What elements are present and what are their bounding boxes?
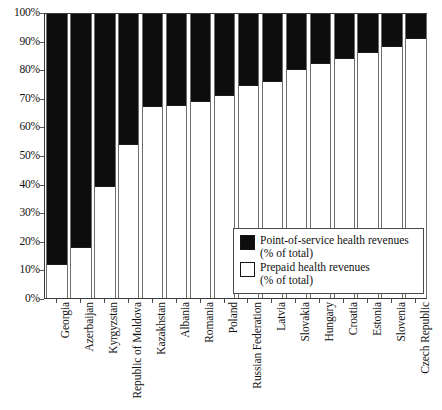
bar-stack	[166, 14, 187, 298]
bar-segment-point-of-service	[119, 14, 138, 146]
legend-swatch-prepaid	[240, 262, 255, 277]
y-tick-label: 0%	[0, 293, 40, 305]
x-category-label: Georgia	[60, 302, 72, 338]
bar-column	[142, 14, 163, 298]
bar-segment-point-of-service	[71, 14, 90, 249]
x-tick-mark	[391, 299, 392, 303]
x-tick-mark	[128, 299, 129, 303]
y-tick-label: 40%	[0, 179, 40, 191]
bar-column	[214, 14, 235, 298]
y-tick-label: 30%	[0, 207, 40, 219]
x-category-label: Hungary	[324, 302, 336, 342]
bar-segment-point-of-service	[167, 14, 186, 107]
legend-label-line2: (% of total)	[260, 274, 370, 287]
bar-stack	[46, 14, 67, 298]
y-tick-label: 70%	[0, 93, 40, 105]
bar-segment-prepaid	[191, 101, 210, 298]
x-category-label: Kyrgyzstan	[108, 302, 120, 354]
bar-segment-prepaid	[143, 106, 162, 298]
x-category-label: Albania	[180, 302, 192, 338]
bar-segment-point-of-service	[95, 14, 114, 188]
legend-item: Point-of-service health revenues (% of t…	[240, 234, 417, 260]
bar-stack	[70, 14, 91, 298]
stacked-bar-chart: 0%10%20%30%40%50%60%70%80%90%100% Georgi…	[0, 0, 442, 410]
bar-segment-point-of-service	[382, 14, 401, 48]
x-tick-mark	[224, 299, 225, 303]
bar-column	[190, 14, 211, 298]
bar-stack	[142, 14, 163, 298]
y-tick-label: 10%	[0, 265, 40, 277]
bar-segment-prepaid	[119, 144, 138, 298]
bar-segment-point-of-service	[47, 14, 66, 266]
bar-column	[118, 14, 139, 298]
x-tick-mark	[343, 299, 344, 303]
legend-label-line2: (% of total)	[260, 247, 409, 260]
x-category-label: Poland	[228, 302, 240, 333]
x-tick-mark	[80, 299, 81, 303]
bar-segment-point-of-service	[406, 14, 425, 40]
legend-label-line1: Prepaid health revenues	[260, 261, 370, 273]
bar-stack	[190, 14, 211, 298]
x-tick-mark	[295, 299, 296, 303]
x-category-label: Slovenia	[396, 302, 408, 341]
bar-segment-point-of-service	[239, 14, 258, 87]
x-axis-category-labels: GeorgiaAzerbaijanKyrgyzstanRepublic of M…	[44, 300, 427, 408]
legend-label-point-of-service: Point-of-service health revenues (% of t…	[260, 234, 409, 260]
x-category-label: Kazakhstan	[156, 302, 168, 355]
x-tick-mark	[247, 299, 248, 303]
bar-column	[166, 14, 187, 298]
bar-segment-point-of-service	[287, 14, 306, 71]
legend-swatch-point-of-service	[240, 235, 255, 250]
bar-segment-prepaid	[47, 264, 66, 298]
bar-column	[46, 14, 67, 298]
y-tick-label: 90%	[0, 36, 40, 48]
bar-segment-point-of-service	[143, 14, 162, 108]
x-category-label: Latvia	[276, 302, 288, 331]
y-tick-label: 60%	[0, 122, 40, 134]
y-axis: 0%10%20%30%40%50%60%70%80%90%100%	[0, 0, 40, 410]
bar-stack	[118, 14, 139, 298]
x-category-label: Czech Republic	[420, 302, 432, 374]
bar-segment-prepaid	[215, 95, 234, 298]
bar-column	[70, 14, 91, 298]
x-tick-mark	[152, 299, 153, 303]
x-category-label: Azerbaijan	[84, 302, 96, 351]
x-tick-mark	[200, 299, 201, 303]
x-tick-mark	[176, 299, 177, 303]
x-tick-mark	[367, 299, 368, 303]
x-tick-mark	[319, 299, 320, 303]
bar-segment-prepaid	[167, 105, 186, 298]
x-tick-mark	[56, 299, 57, 303]
bar-stack	[214, 14, 235, 298]
y-tick-label: 50%	[0, 150, 40, 162]
y-tick-label: 20%	[0, 236, 40, 248]
bar-stack	[94, 14, 115, 298]
x-category-label: Russian Federation	[252, 302, 264, 389]
bar-segment-point-of-service	[263, 14, 282, 83]
bar-segment-prepaid	[95, 186, 114, 298]
y-tick-label: 80%	[0, 64, 40, 76]
x-tick-mark	[104, 299, 105, 303]
x-category-label: Slovakia	[300, 302, 312, 341]
bar-column	[94, 14, 115, 298]
bar-segment-point-of-service	[358, 14, 377, 54]
bar-segment-point-of-service	[191, 14, 210, 103]
x-category-label: Republic of Moldova	[132, 302, 144, 398]
bar-segment-point-of-service	[335, 14, 354, 60]
bar-segment-point-of-service	[311, 14, 330, 65]
x-tick-mark	[271, 299, 272, 303]
x-category-label: Estonia	[372, 302, 384, 336]
bar-segment-point-of-service	[215, 14, 234, 97]
x-category-label: Croatia	[348, 302, 360, 335]
y-tick-label: 100%	[0, 7, 40, 19]
legend-item: Prepaid health revenues (% of total)	[240, 261, 417, 287]
bar-segment-prepaid	[71, 247, 90, 298]
x-tick-mark	[415, 299, 416, 303]
legend-label-prepaid: Prepaid health revenues (% of total)	[260, 261, 370, 287]
x-category-label: Romania	[204, 302, 216, 343]
chart-legend: Point-of-service health revenues (% of t…	[233, 228, 424, 294]
legend-label-line1: Point-of-service health revenues	[260, 234, 409, 246]
